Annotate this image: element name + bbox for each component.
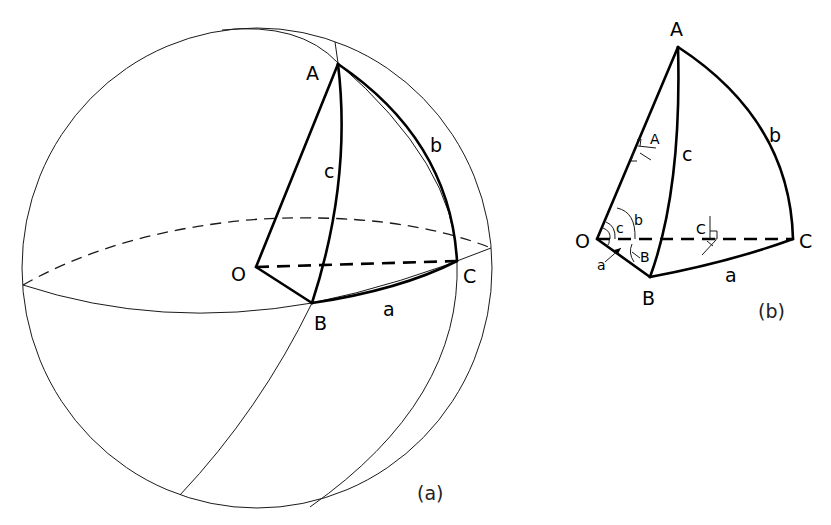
label-b-side-b: b <box>769 124 781 146</box>
label-a-side-c: c <box>324 160 334 182</box>
label-b-angle-b: b <box>634 212 643 228</box>
caption-a: (a) <box>417 482 443 504</box>
label-b-angle-A: A <box>650 131 660 147</box>
label-b-angle-B: B <box>640 249 650 265</box>
label-a-vertex-O: O <box>231 263 246 285</box>
label-a-vertex-A: A <box>306 62 319 84</box>
arc-b <box>338 64 457 261</box>
label-b-side-c: c <box>682 143 692 165</box>
diagram-canvas: A O B C a b c (a) A O B <box>0 0 831 525</box>
radius-oc <box>256 261 457 267</box>
angle-arc-c-2 <box>603 228 610 239</box>
dihedral-b-marker <box>630 244 640 262</box>
arc-a <box>312 261 457 303</box>
label-b-vertex-B: B <box>642 287 655 309</box>
label-a-vertex-C: C <box>463 265 476 287</box>
label-b-vertex-C: C <box>799 230 812 252</box>
edge-oa <box>597 47 678 239</box>
arc-c <box>312 64 342 303</box>
arc-a-b <box>650 239 793 277</box>
label-a-side-b: b <box>430 134 442 156</box>
label-b-side-a: a <box>725 264 737 286</box>
label-b-angle-c: c <box>616 220 624 236</box>
figure-b: A O B C a b c A b c a B C (b) <box>575 18 812 322</box>
figure-a: A O B C a b c (a) <box>22 28 492 508</box>
caption-b: (b) <box>758 300 785 322</box>
label-a-vertex-B: B <box>314 312 327 334</box>
label-b-vertex-O: O <box>575 230 590 252</box>
radius-ob <box>256 267 312 303</box>
equator-front <box>23 248 491 313</box>
great-circle-ab-lower <box>180 303 312 495</box>
label-a-side-a: a <box>383 298 395 320</box>
label-b-angle-C: C <box>696 221 706 237</box>
label-b-vertex-A: A <box>670 18 683 40</box>
equator-back <box>23 218 491 285</box>
label-b-angle-a: a <box>597 257 606 273</box>
